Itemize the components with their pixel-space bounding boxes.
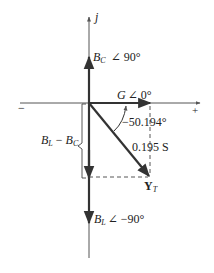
yt-magnitude-label: 0.195 S xyxy=(132,140,169,154)
angle-label: −50.194° xyxy=(122,115,167,129)
j-axis-label: j xyxy=(93,10,99,24)
difference-brace xyxy=(78,104,86,178)
positive-axis-label: + xyxy=(192,104,198,116)
bl-label: BL∠ −90° xyxy=(94,212,145,227)
bc-label: BC∠ 90° xyxy=(93,50,141,65)
yt-label: YT xyxy=(144,179,158,194)
negative-axis-label: − xyxy=(18,101,25,115)
difference-label: BL − BC xyxy=(41,133,79,148)
g-label: G∠ 0° xyxy=(117,88,152,102)
phasor-diagram: j − + BC∠ 90° G∠ 0° −50.194° 0.195 S YT … xyxy=(0,0,214,273)
